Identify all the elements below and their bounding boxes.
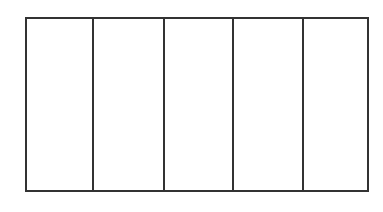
column-cell-1 xyxy=(27,19,94,190)
fraction-bar-diagram xyxy=(25,17,369,192)
column-cell-2 xyxy=(94,19,165,190)
column-cell-4 xyxy=(234,19,304,190)
column-cell-5 xyxy=(304,19,367,190)
column-cell-3 xyxy=(165,19,234,190)
